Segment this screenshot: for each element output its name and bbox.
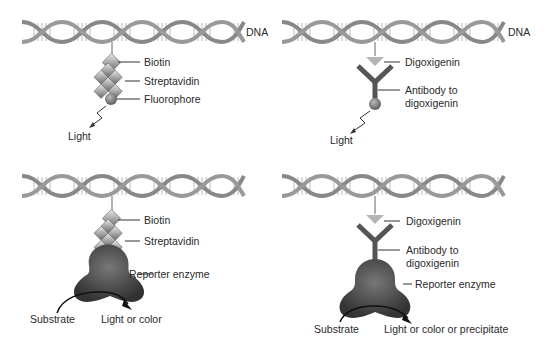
dna-helix-bottom-left <box>22 176 244 196</box>
light-label-top-left: Light <box>68 130 91 142</box>
antibody-label-top-right-line1: Antibody to <box>405 84 458 96</box>
streptavidin-label-bottom-left: Streptavidin <box>144 235 199 247</box>
antibody-label-bottom-right-line1: Antibody to <box>406 244 459 256</box>
reporter-enzyme-label-bottom-right: Reporter enzyme <box>415 278 496 290</box>
light-color-precipitate-label: Light or color or precipitate <box>384 323 508 335</box>
antibody-label-top-right-line2: digoxigenin <box>405 97 458 109</box>
digoxigenin-label-top-right: Digoxigenin <box>405 56 460 68</box>
fluorophore-label: Fluorophore <box>144 93 201 105</box>
diagram-canvas <box>0 0 546 354</box>
dna-label-top-right: DNA <box>508 26 530 38</box>
biotin-label-bottom-left: Biotin <box>144 214 170 226</box>
streptavidin-label-top-left: Streptavidin <box>144 75 199 87</box>
dna-helix-bottom-right <box>282 176 504 196</box>
dna-helix-top-left <box>22 22 244 42</box>
substrate-label-bottom-left: Substrate <box>30 313 75 325</box>
dna-label-top-left: DNA <box>246 26 268 38</box>
antibody-label-bottom-right-line2: digoxigenin <box>406 257 459 269</box>
dna-helix-top-right <box>282 22 504 42</box>
reporter-enzyme-label-bottom-left: Reporter enzyme <box>129 268 210 280</box>
digoxigenin-label-bottom-right: Digoxigenin <box>406 215 461 227</box>
light-label-top-right: Light <box>330 134 353 146</box>
substrate-label-bottom-right: Substrate <box>314 323 359 335</box>
light-or-color-label: Light or color <box>101 313 162 325</box>
biotin-label-top-left: Biotin <box>144 56 170 68</box>
